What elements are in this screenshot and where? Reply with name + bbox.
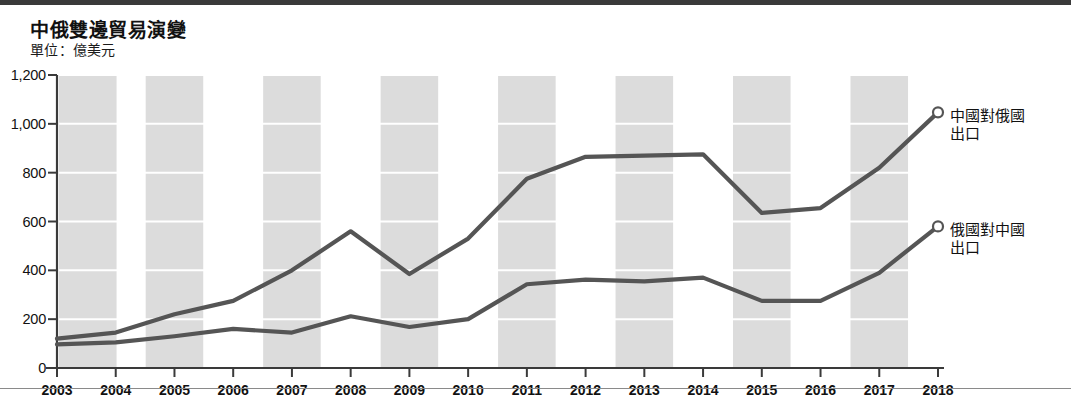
x-tick-label: 2018	[910, 382, 966, 398]
legend-label-line2: 出口	[950, 239, 1025, 257]
x-tick-label: 2014	[675, 382, 731, 398]
x-tick-label: 2011	[499, 382, 555, 398]
x-tick-label: 2015	[734, 382, 790, 398]
x-tick-label: 2017	[851, 382, 907, 398]
line-chart-plot	[0, 5, 1071, 394]
x-tick-label: 2007	[264, 382, 320, 398]
x-tick-label: 2004	[88, 382, 144, 398]
bottom-rule	[0, 388, 1071, 389]
chart-figure: 中俄雙邊貿易演變 單位：億美元 02004006008001,0001,200 …	[0, 5, 1071, 394]
y-tick-label: 600	[0, 214, 46, 230]
legend-label-line1: 中國對俄國	[950, 107, 1025, 125]
legend-label-line1: 俄國對中國	[950, 221, 1025, 239]
y-axis-ticks	[48, 75, 57, 368]
series-endpoint-marker	[933, 221, 943, 231]
series-endpoint-marker	[933, 107, 943, 117]
x-tick-label: 2005	[146, 382, 202, 398]
y-tick-label: 200	[0, 311, 46, 327]
y-tick-label: 1,000	[0, 116, 46, 132]
x-tick-label: 2012	[558, 382, 614, 398]
x-tick-label: 2008	[323, 382, 379, 398]
x-tick-label: 2006	[205, 382, 261, 398]
x-tick-label: 2016	[793, 382, 849, 398]
y-tick-label: 1,200	[0, 67, 46, 83]
x-tick-label: 2003	[29, 382, 85, 398]
legend-series-russia-to-china: 俄國對中國 出口	[950, 221, 1025, 256]
endpoint-markers	[933, 107, 943, 231]
legend-label-line2: 出口	[950, 125, 1025, 143]
y-tick-label: 800	[0, 165, 46, 181]
x-tick-label: 2013	[616, 382, 672, 398]
x-tick-label: 2009	[381, 382, 437, 398]
legend-series-china-to-russia: 中國對俄國 出口	[950, 107, 1025, 142]
y-tick-label: 0	[0, 360, 46, 376]
x-axis-ticks	[57, 368, 938, 377]
y-tick-label: 400	[0, 262, 46, 278]
x-tick-label: 2010	[440, 382, 496, 398]
